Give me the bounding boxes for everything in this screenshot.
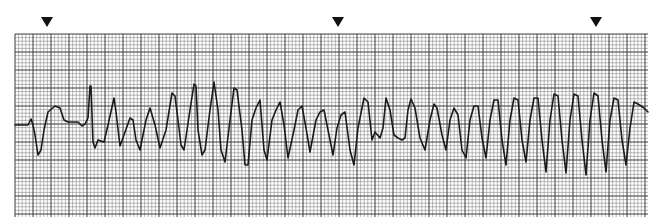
ecg-minor-grid xyxy=(15,34,648,217)
beat-markers xyxy=(41,17,602,27)
arrowhead-marker-icon xyxy=(332,17,344,27)
ecg-rhythm-strip xyxy=(0,0,656,223)
arrowhead-marker-icon xyxy=(590,17,602,27)
arrowhead-marker-icon xyxy=(41,17,53,27)
